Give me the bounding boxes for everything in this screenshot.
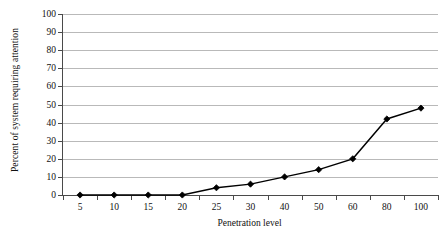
x-axis-tick <box>268 195 269 200</box>
x-axis-tick <box>199 195 200 200</box>
data-point-marker <box>247 181 253 187</box>
y-axis-tick-label: 100 <box>42 9 56 19</box>
data-point-marker <box>418 105 424 111</box>
x-axis-tick-label: 60 <box>348 202 358 212</box>
data-series-line <box>63 14 438 195</box>
x-axis-tick-label: 40 <box>280 202 290 212</box>
x-axis-title: Penetration level <box>62 218 437 228</box>
x-axis-tick <box>165 195 166 200</box>
plot-area: 0102030405060708090100 51015202530405060… <box>62 14 438 196</box>
y-axis-tick-label: 80 <box>47 45 57 55</box>
x-axis-tick <box>404 195 405 200</box>
y-axis-tick-label: 70 <box>47 63 57 73</box>
x-axis-tick <box>370 195 371 200</box>
x-axis-tick-label: 5 <box>78 202 83 212</box>
data-point-marker <box>77 192 83 198</box>
x-axis-tick-label: 50 <box>314 202 324 212</box>
data-point-marker <box>111 192 117 198</box>
y-axis-tick-label: 20 <box>47 154 57 164</box>
chart-figure: Percent of system requiring attention 01… <box>0 0 448 238</box>
y-axis-tick-label: 40 <box>47 118 57 128</box>
x-axis-tick-label: 15 <box>143 202 153 212</box>
x-axis-tick <box>336 195 337 200</box>
y-axis-title-label: Percent of system requiring attention <box>10 28 20 172</box>
x-axis-tick <box>302 195 303 200</box>
x-axis-tick <box>63 195 64 200</box>
y-axis-tick-label: 30 <box>47 136 57 146</box>
data-point-marker <box>213 185 219 191</box>
x-axis-tick-label: 80 <box>382 202 392 212</box>
data-point-marker <box>316 167 322 173</box>
x-axis-tick-label: 30 <box>246 202 256 212</box>
x-axis-tick <box>438 195 439 200</box>
y-axis-title: Percent of system requiring attention <box>6 0 24 200</box>
y-axis-tick-label: 60 <box>47 81 57 91</box>
x-axis-tick <box>97 195 98 200</box>
x-axis-tick-label: 10 <box>109 202 119 212</box>
x-axis-tick <box>233 195 234 200</box>
data-point-marker <box>179 192 185 198</box>
y-axis-tick-label: 90 <box>47 27 57 37</box>
x-axis-tick-label: 100 <box>414 202 428 212</box>
y-axis-tick-label: 10 <box>47 172 57 182</box>
x-axis-tick-label: 25 <box>212 202 222 212</box>
y-axis-tick-label: 50 <box>47 100 57 110</box>
data-point-marker <box>145 192 151 198</box>
x-axis-tick-label: 20 <box>178 202 188 212</box>
x-axis-tick <box>131 195 132 200</box>
y-axis-tick-label: 0 <box>51 190 56 200</box>
data-point-marker <box>281 174 287 180</box>
